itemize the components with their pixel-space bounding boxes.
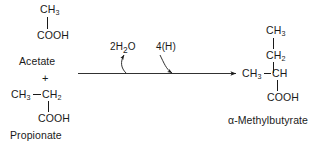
water-input-curve (122, 55, 126, 73)
product-branch-methyl: CH3 (242, 68, 262, 79)
product-c4-methyl: CH3 (266, 25, 286, 36)
product-carboxyl-group: COOH (267, 92, 299, 103)
product-bond-c2-c1 (277, 80, 278, 91)
product-c3-methylene: CH2 (266, 50, 286, 61)
hydrogen-output-curve (160, 55, 172, 73)
product-c2-methine: CH (272, 68, 287, 79)
reaction-scheme: CH3 COOH Acetate + CH3 CH2 COOH Propiona… (0, 0, 322, 147)
product-bond-c4-c3 (273, 38, 274, 49)
product-label: α-Methylbutyrate (228, 115, 308, 126)
product-bond-methyl-c2 (264, 73, 271, 74)
